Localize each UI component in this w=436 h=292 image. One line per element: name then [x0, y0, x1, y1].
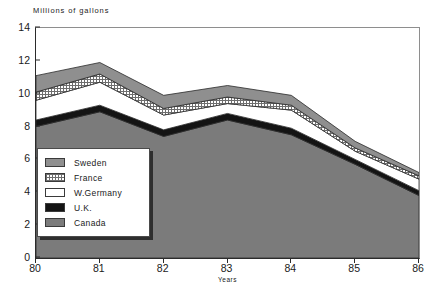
x-axis-title: Years: [218, 276, 237, 283]
legend: SwedenFranceW.GermanyU.K.Canada: [37, 148, 150, 237]
sweden-swatch: [45, 158, 65, 167]
france-swatch: [45, 173, 65, 182]
y-tick-label: 10: [18, 87, 30, 99]
x-tick-label: 82: [157, 262, 169, 274]
y-tick-label: 8: [24, 120, 30, 132]
y-tick-mark: [35, 92, 40, 93]
stacked-area-chart: Millions of gallons 02468101214 Years 80…: [0, 0, 436, 292]
uk-swatch: [45, 203, 65, 212]
x-tick-label: 85: [348, 262, 360, 274]
canada-swatch: [45, 218, 65, 227]
y-tick-label: 4: [24, 185, 30, 197]
y-tick-mark: [35, 27, 40, 28]
legend-item-label: Sweden: [74, 158, 107, 168]
legend-item-label: Canada: [74, 218, 106, 228]
y-tick-mark: [35, 125, 40, 126]
x-tick-label: 81: [93, 262, 105, 274]
y-tick-label: 6: [24, 152, 30, 164]
x-tick-label: 86: [412, 262, 424, 274]
legend-item-label: U.K.: [74, 203, 92, 213]
wgermany-swatch: [45, 188, 65, 197]
legend-item-label: W.Germany: [74, 188, 122, 198]
x-axis: Years 80818283848586: [35, 259, 420, 289]
y-tick-label: 12: [18, 54, 30, 66]
legend-item-label: France: [74, 173, 103, 183]
legend-item: France: [45, 170, 143, 185]
legend-item: U.K.: [45, 200, 143, 215]
y-tick-mark: [35, 59, 40, 60]
y-axis-unit-label: Millions of gallons: [33, 6, 109, 15]
y-tick-label: 2: [24, 218, 30, 230]
y-tick-label: 14: [18, 21, 30, 33]
legend-item: W.Germany: [45, 185, 143, 200]
legend-item: Canada: [45, 215, 143, 230]
x-tick-label: 80: [29, 262, 41, 274]
legend-item: Sweden: [45, 155, 143, 170]
y-tick-mark: [35, 257, 40, 258]
x-tick-label: 84: [284, 262, 296, 274]
x-tick-label: 83: [221, 262, 233, 274]
